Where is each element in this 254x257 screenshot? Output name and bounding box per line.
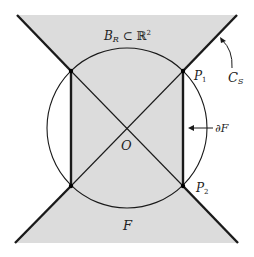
cone-label: CS <box>228 70 244 86</box>
boundary-arrowhead-icon <box>188 125 194 131</box>
p2-label: P2 <box>195 181 209 196</box>
shaded-region-top <box>17 15 237 71</box>
p1-label: P1 <box>193 69 207 84</box>
vertex-dot-p2 <box>181 184 185 188</box>
boundary-label: ∂F <box>215 122 229 135</box>
region-label: F <box>122 218 133 233</box>
vertex-dot-p1 <box>181 69 185 73</box>
cs-arrowhead-icon <box>220 37 226 43</box>
origin-label: O <box>121 138 132 153</box>
vertex-dot-bottom-left <box>69 184 73 188</box>
cs-pointer-arrow <box>222 40 232 68</box>
ball-label: BR ⊂ ℝ2 <box>103 29 151 44</box>
vertex-dot-top-left <box>69 69 73 73</box>
diagram-canvas: BR ⊂ ℝ2 P1 P2 CS O ∂F F <box>0 0 254 257</box>
